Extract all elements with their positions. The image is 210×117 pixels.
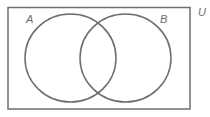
set-a-circle — [25, 14, 116, 102]
venn-diagram: A B U — [0, 0, 210, 117]
set-b-label: B — [160, 13, 167, 25]
set-b-circle — [80, 14, 171, 102]
set-a-label: A — [25, 13, 33, 25]
universe-label: U — [198, 6, 206, 18]
